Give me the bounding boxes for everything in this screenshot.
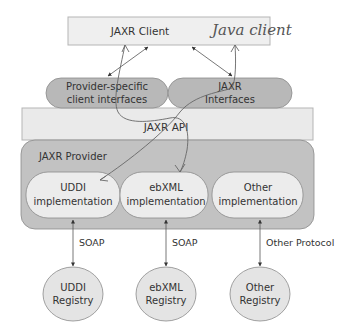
- registry-ebxml: ebXML Registry: [136, 267, 196, 321]
- interface-pill-jaxr: JAXR Interfaces: [168, 78, 292, 108]
- interface-pill-provider-specific: Provider-specific client interfaces: [46, 78, 168, 108]
- java-client-annotation: Java client: [209, 21, 293, 39]
- client-interface-arrows: [108, 47, 232, 76]
- svg-text:client interfaces: client interfaces: [67, 94, 147, 105]
- svg-text:Registry: Registry: [240, 295, 281, 306]
- svg-text:Provider-specific: Provider-specific: [66, 81, 148, 92]
- svg-text:UDDI: UDDI: [60, 182, 86, 193]
- svg-text:implementation: implementation: [33, 196, 112, 207]
- svg-text:Registry: Registry: [146, 295, 187, 306]
- impl-pill-ebxml: ebXML implementation: [120, 172, 208, 218]
- jaxr-api-bar: JAXR API: [22, 108, 313, 140]
- svg-text:Other: Other: [244, 182, 273, 193]
- svg-text:ebXML: ebXML: [149, 282, 183, 293]
- jaxr-client-label: JAXR Client: [110, 25, 169, 37]
- registry-other: Other Registry: [230, 267, 290, 321]
- svg-text:JAXR: JAXR: [217, 81, 241, 92]
- svg-text:Interfaces: Interfaces: [205, 94, 255, 105]
- svg-text:UDDI: UDDI: [60, 282, 86, 293]
- protocol-label-uddi: SOAP: [79, 237, 105, 248]
- registry-uddi: UDDI Registry: [43, 267, 103, 321]
- jaxr-provider-label: JAXR Provider: [38, 151, 108, 162]
- svg-text:implementation: implementation: [218, 196, 297, 207]
- impl-pill-other: Other implementation: [212, 172, 303, 218]
- svg-text:Registry: Registry: [53, 295, 94, 306]
- impl-pill-uddi: UDDI implementation: [26, 172, 120, 218]
- svg-text:implementation: implementation: [126, 196, 205, 207]
- protocol-label-other: Other Protocol: [266, 237, 334, 248]
- jaxr-architecture-diagram: JAXR Client Java client JAXR API Provide…: [0, 0, 357, 333]
- protocol-label-ebxml: SOAP: [172, 237, 198, 248]
- jaxr-api-label: JAXR API: [143, 121, 189, 133]
- svg-text:ebXML: ebXML: [149, 182, 183, 193]
- svg-text:Other: Other: [246, 282, 275, 293]
